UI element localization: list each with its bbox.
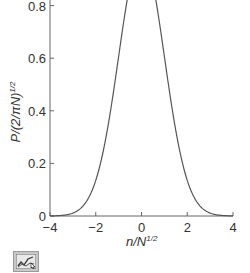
x-tick-label: −4 xyxy=(43,220,58,235)
x-tick-label: 4 xyxy=(229,220,236,235)
y-axis-label: P/(2/πN)1/2 xyxy=(8,81,23,143)
gaussian-chart: 00.20.40.60.8 −4−2024 n/N1/2 P/(2/πN)1/2 xyxy=(0,0,250,250)
chart-toggle-button[interactable] xyxy=(13,251,39,272)
x-tick-label: 0 xyxy=(138,220,145,235)
line-chart-icon xyxy=(16,254,36,269)
x-tick-label: 2 xyxy=(184,220,191,235)
distribution-curve xyxy=(50,0,233,216)
y-tick-label: 0.2 xyxy=(28,156,46,171)
y-tick-label: 0.6 xyxy=(28,51,46,66)
y-tick-label: 0.8 xyxy=(28,0,46,14)
y-tick-label: 0.4 xyxy=(28,104,46,119)
x-tick-label: −2 xyxy=(88,220,103,235)
x-axis-label: n/N1/2 xyxy=(126,234,158,249)
x-axis-ticks: −4−2024 xyxy=(43,212,237,235)
